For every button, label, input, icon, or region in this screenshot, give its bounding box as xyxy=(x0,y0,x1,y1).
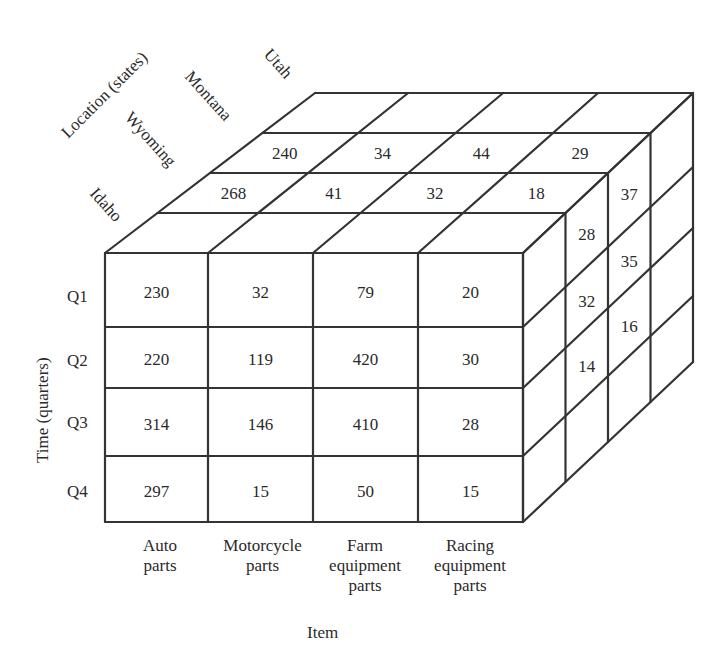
side-cell-value: 14 xyxy=(578,357,596,376)
cube-values: 2303279202201194203031414641028297155015… xyxy=(144,144,639,501)
top-cell-value: 34 xyxy=(374,144,392,163)
item-label-line: parts xyxy=(420,576,520,596)
item-label-line: Farm xyxy=(315,536,415,556)
cell-value: 15 xyxy=(462,482,479,501)
quarter-label-q2: Q2 xyxy=(67,351,88,370)
item-label-motorcycle-parts: Motorcycle parts xyxy=(205,536,320,576)
cell-value: 314 xyxy=(144,415,170,434)
cell-value: 28 xyxy=(462,415,479,434)
state-label-wyoming: Wyoming xyxy=(121,108,180,171)
cell-value: 420 xyxy=(353,350,379,369)
cell-value: 146 xyxy=(248,415,274,434)
cell-value: 119 xyxy=(248,350,273,369)
cell-value: 20 xyxy=(462,283,479,302)
cell-value: 30 xyxy=(462,350,479,369)
cell-value: 32 xyxy=(252,283,269,302)
state-label-utah: Utah xyxy=(260,45,297,83)
top-cell-value: 29 xyxy=(571,144,588,163)
top-cell-value: 268 xyxy=(221,184,247,203)
cell-value: 410 xyxy=(353,415,379,434)
cell-value: 15 xyxy=(252,482,269,501)
item-label-auto-parts: Auto parts xyxy=(125,536,195,576)
state-label-montana: Montana xyxy=(181,67,236,125)
side-cell-value: 35 xyxy=(621,252,638,271)
top-cell-value: 240 xyxy=(272,144,298,163)
top-cell-value: 32 xyxy=(426,184,443,203)
item-label-line: parts xyxy=(205,556,320,576)
item-label-line: parts xyxy=(125,556,195,576)
item-label-farm-equipment-parts: Farm equipment parts xyxy=(315,536,415,596)
cube-grid-lines xyxy=(105,93,693,522)
item-label-line: parts xyxy=(315,576,415,596)
top-cell-value: 41 xyxy=(325,184,342,203)
cell-value: 220 xyxy=(144,350,170,369)
cell-value: 79 xyxy=(357,283,374,302)
side-cell-value: 28 xyxy=(578,225,595,244)
item-label-line: equipment xyxy=(420,556,520,576)
quarter-label-q4: Q4 xyxy=(67,482,88,501)
top-cell-value: 18 xyxy=(528,184,545,203)
quarter-label-q1: Q1 xyxy=(67,287,88,306)
cell-value: 50 xyxy=(357,482,374,501)
cell-value: 230 xyxy=(144,283,170,302)
item-label-line: Motorcycle xyxy=(205,536,320,556)
side-cell-value: 37 xyxy=(621,185,639,204)
quarter-label-q3: Q3 xyxy=(67,413,88,432)
item-label-racing-equipment-parts: Racing equipment parts xyxy=(420,536,520,596)
side-cell-value: 16 xyxy=(621,317,638,336)
item-label-line: equipment xyxy=(315,556,415,576)
item-axis-title: Item xyxy=(307,623,338,643)
cell-value: 297 xyxy=(144,482,170,501)
item-label-line: Racing xyxy=(420,536,520,556)
side-cell-value: 32 xyxy=(578,292,595,311)
time-axis-title: Time (quarters) xyxy=(33,357,52,463)
item-label-line: Auto xyxy=(125,536,195,556)
state-label-idaho: Idaho xyxy=(86,184,126,225)
top-cell-value: 44 xyxy=(473,144,491,163)
